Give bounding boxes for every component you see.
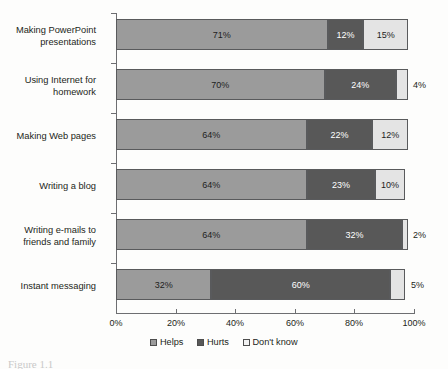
category-label-line1: Writing e-mails to	[0, 225, 96, 237]
x-tick-label-60: 60%	[286, 318, 304, 328]
bar-segment-hurts: 24%	[325, 69, 397, 100]
stacked-bar-chart: 0% 20% 40% 60% 80% 100% Making PowerPoin…	[0, 0, 448, 369]
category-label-line1: Making Web pages	[0, 131, 96, 143]
x-axis-line	[116, 313, 415, 314]
y-axis-tick	[111, 263, 116, 264]
bar-segment-helps: 70%	[116, 69, 325, 100]
legend-item-dont-know: Don't know	[243, 337, 298, 347]
bar-segment-dont-know: 12%	[372, 119, 408, 150]
bar-segment-hurts: 23%	[307, 169, 376, 200]
bar-segment-hurts: 32%	[307, 219, 402, 250]
legend-item-hurts: Hurts	[197, 337, 228, 347]
y-axis-tick	[111, 213, 116, 214]
y-axis-tick	[111, 163, 116, 164]
x-axis-tick	[116, 309, 117, 314]
figure-caption-text: Figure 1.1	[8, 360, 248, 369]
bar-segment-dont-know: 15%	[363, 19, 408, 50]
category-label-making-powerpoint-presentations: Making PowerPoint presentations	[0, 25, 96, 48]
x-axis-tick	[176, 309, 177, 314]
figure-caption-clipped: Figure 1.1	[8, 360, 248, 369]
bar-segment-dont-know: 10%	[375, 169, 405, 200]
x-tick-label-80: 80%	[345, 318, 363, 328]
bar-segment-dont-know-label: 5%	[406, 269, 424, 300]
x-tick-label-40: 40%	[226, 318, 244, 328]
y-axis-tick	[111, 113, 116, 114]
category-label-line2: presentations	[0, 37, 96, 49]
legend: Helps Hurts Don't know	[0, 337, 448, 347]
legend-label-helps: Helps	[160, 337, 184, 347]
x-axis-tick	[235, 309, 236, 314]
category-label-line1: Using Internet for	[0, 75, 96, 87]
bar-segment-helps: 32%	[116, 269, 211, 300]
category-label-making-web-pages: Making Web pages	[0, 131, 96, 143]
y-axis-top-cap	[111, 13, 116, 14]
category-label-line2: homework	[0, 87, 96, 99]
bar-segment-helps: 64%	[116, 219, 307, 250]
bar-segment-helps: 64%	[116, 119, 307, 150]
y-axis-tick	[111, 63, 116, 64]
x-tick-label-0: 0%	[109, 318, 122, 328]
category-label-line1: Instant messaging	[0, 281, 96, 293]
legend-swatch-dont-know-icon	[243, 339, 250, 346]
category-label-writing-a-blog: Writing a blog	[0, 181, 96, 193]
x-axis-tick	[295, 309, 296, 314]
legend-swatch-hurts-icon	[197, 339, 204, 346]
bar-segment-dont-know	[396, 69, 408, 100]
category-label-instant-messaging: Instant messaging	[0, 281, 96, 293]
category-label-using-internet-for-homework: Using Internet for homework	[0, 75, 96, 98]
legend-swatch-helps-icon	[150, 339, 157, 346]
legend-item-helps: Helps	[150, 337, 183, 347]
bar-segment-helps: 64%	[116, 169, 307, 200]
category-label-line1: Writing a blog	[0, 181, 96, 193]
category-label-line1: Making PowerPoint	[0, 25, 96, 37]
bar-segment-dont-know-label: 2%	[408, 219, 426, 250]
category-label-line2: friends and family	[0, 237, 96, 249]
legend-label-dont-know: Don't know	[252, 337, 297, 347]
bar-segment-hurts: 60%	[211, 269, 390, 300]
x-tick-label-100: 100%	[402, 318, 425, 328]
bar-segment-dont-know-label: 4%	[408, 69, 426, 100]
bar-segment-hurts: 22%	[307, 119, 373, 150]
x-tick-label-20: 20%	[167, 318, 185, 328]
category-label-writing-e-mails-to-friends-and-family: Writing e-mails to friends and family	[0, 225, 96, 248]
bar-segment-dont-know	[390, 269, 405, 300]
bar-segment-helps: 71%	[116, 19, 328, 50]
bar-segment-hurts: 12%	[328, 19, 364, 50]
legend-label-hurts: Hurts	[207, 337, 229, 347]
x-axis-end-cap	[414, 309, 415, 314]
x-axis-tick	[354, 309, 355, 314]
